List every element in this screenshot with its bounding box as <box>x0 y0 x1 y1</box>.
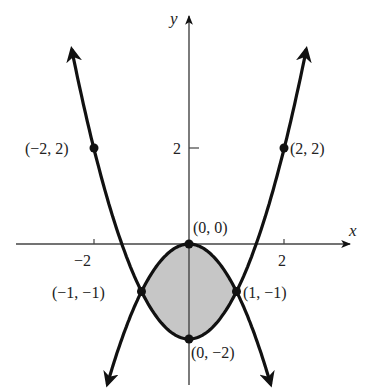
point-0-neg2 <box>185 335 194 344</box>
label-point-1-neg1: (1, −1) <box>243 284 287 302</box>
label-point-0-0: (0, 0) <box>193 219 228 237</box>
graph-canvas: x y −2 2 2 (−2, 2) (2, 2) (0, 0) (−1, −1… <box>0 0 372 389</box>
label-point-neg1-neg1: (−1, −1) <box>52 284 105 302</box>
point-neg1-neg1 <box>137 287 146 296</box>
label-point-0-neg2: (0, −2) <box>191 344 235 362</box>
y-axis-label: y <box>168 9 178 28</box>
point-neg2-2 <box>90 144 99 153</box>
tick-label-y-2: 2 <box>173 140 181 157</box>
label-point-neg2-2: (−2, 2) <box>25 140 69 158</box>
point-2-2 <box>280 144 289 153</box>
x-axis-label: x <box>348 221 357 240</box>
label-point-2-2: (2, 2) <box>290 140 325 158</box>
point-0-0 <box>185 240 194 249</box>
tick-label-x-2: 2 <box>278 252 286 269</box>
point-1-neg1 <box>232 287 241 296</box>
tick-label-x-neg2: −2 <box>74 252 91 269</box>
